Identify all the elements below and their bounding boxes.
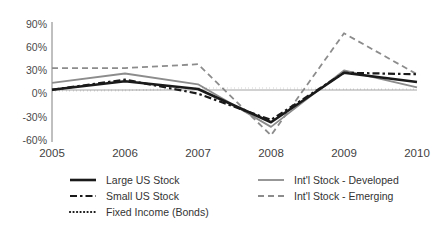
- y-axis-tick-label: 30%: [26, 64, 47, 76]
- x-axis-tick-label: 2007: [185, 147, 211, 159]
- x-axis-tick-label: 2009: [331, 147, 357, 159]
- y-axis-tick-label: 90%: [26, 18, 47, 30]
- x-axis-tick-label: 2010: [404, 147, 430, 159]
- line-chart: 90%60%30%0%-30%-60% 20052006200720082009…: [0, 0, 443, 228]
- legend-label: Small US Stock: [106, 190, 180, 202]
- legend-label: Large US Stock: [106, 174, 180, 186]
- y-axis-tick-label: -30%: [22, 111, 47, 123]
- legend-label: Int'l Stock - Developed: [294, 174, 399, 186]
- legend-label: Fixed Income (Bonds): [106, 206, 209, 218]
- chart-container: 90%60%30%0%-30%-60% 20052006200720082009…: [0, 0, 443, 228]
- y-axis-tick-label: 0%: [32, 87, 47, 99]
- x-axis-tick-label: 2008: [258, 147, 284, 159]
- x-axis-tick-label: 2005: [39, 147, 65, 159]
- y-axis-tick-label: 60%: [26, 41, 47, 53]
- y-axis-tick-label: -60%: [22, 134, 47, 146]
- legend-label: Int'l Stock - Emerging: [294, 190, 394, 202]
- x-axis-tick-label: 2006: [112, 147, 138, 159]
